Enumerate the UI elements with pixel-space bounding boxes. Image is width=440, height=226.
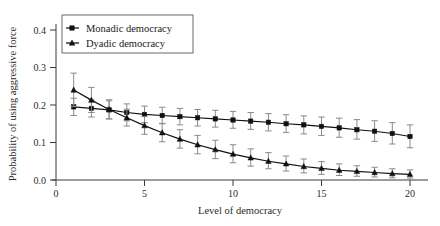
y-axis-title: Probability of using aggressive force xyxy=(7,26,18,181)
data-point-marker-square xyxy=(390,131,394,135)
x-axis-title: Level of democracy xyxy=(198,205,283,216)
x-tick-label: 5 xyxy=(142,188,147,199)
legend-label: Dyadic democracy xyxy=(86,38,166,49)
data-point-marker-square xyxy=(266,120,270,124)
x-tick-label: 10 xyxy=(228,188,238,199)
data-point-marker-square xyxy=(142,112,146,116)
legend-marker-square xyxy=(70,26,74,30)
legend-label: Monadic democracy xyxy=(86,23,173,34)
chart-figure: 0.00.10.20.30.4 05101520 Level of democr… xyxy=(0,0,440,226)
data-point-marker-square xyxy=(319,124,323,128)
data-point-marker-square xyxy=(408,134,412,138)
data-point-marker-square xyxy=(284,122,288,126)
x-tick-label: 15 xyxy=(317,188,327,199)
probability-vs-democracy-line-chart: 0.00.10.20.30.4 05101520 Level of democr… xyxy=(0,0,440,226)
data-point-marker-square xyxy=(160,113,164,117)
data-point-marker-square xyxy=(302,123,306,127)
y-tick-label: 0.1 xyxy=(34,137,47,148)
x-tick-label: 20 xyxy=(405,188,415,199)
y-tick-label: 0.2 xyxy=(34,100,47,111)
y-tick-label: 0.4 xyxy=(34,25,47,36)
y-tick-label: 0.0 xyxy=(34,175,47,186)
data-point-marker-square xyxy=(355,128,359,132)
y-tick-label: 0.3 xyxy=(34,62,47,73)
data-point-marker-square xyxy=(372,129,376,133)
data-point-marker-square xyxy=(213,117,217,121)
x-tick-label: 0 xyxy=(54,188,59,199)
data-point-marker-square xyxy=(178,114,182,118)
data-point-marker-square xyxy=(337,126,341,130)
data-point-marker-square xyxy=(195,116,199,120)
data-point-marker-square xyxy=(249,119,253,123)
chart-legend: Monadic democracyDyadic democracy xyxy=(62,15,193,53)
data-point-marker-square xyxy=(231,118,235,122)
